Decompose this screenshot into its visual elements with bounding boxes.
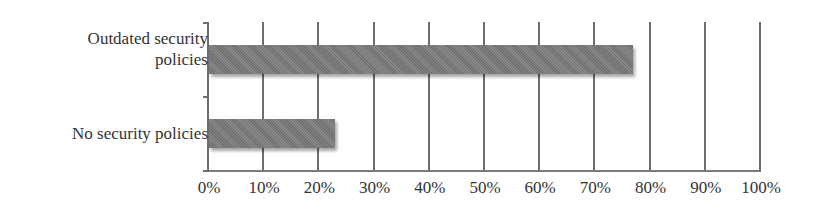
- x-tick-label: 70%: [580, 178, 611, 198]
- gridline: [704, 22, 706, 171]
- x-tick-label: 0%: [198, 178, 221, 198]
- x-tick-label: 10%: [249, 178, 280, 198]
- y-axis-tick: [203, 96, 209, 98]
- x-tick-label: 90%: [690, 178, 721, 198]
- x-tick-label: 80%: [635, 178, 666, 198]
- category-label-none: No security policies: [72, 123, 208, 144]
- bar: [209, 119, 335, 148]
- x-tick-label: 100%: [741, 178, 781, 198]
- x-tick-label: 50%: [469, 178, 500, 198]
- gridline: [759, 22, 761, 171]
- x-axis: [203, 170, 761, 172]
- category-label-outdated: Outdated security policies: [88, 28, 208, 70]
- x-tick-label: 40%: [414, 178, 445, 198]
- x-tick-label: 60%: [525, 178, 556, 198]
- y-axis-tick: [203, 22, 209, 24]
- horizontal-bar-chart: Outdated security policies No security p…: [0, 0, 819, 218]
- bar: [209, 45, 633, 74]
- y-axis-tick: [203, 170, 209, 172]
- gridline: [649, 22, 651, 171]
- x-tick-label: 30%: [359, 178, 390, 198]
- x-tick-label: 20%: [304, 178, 335, 198]
